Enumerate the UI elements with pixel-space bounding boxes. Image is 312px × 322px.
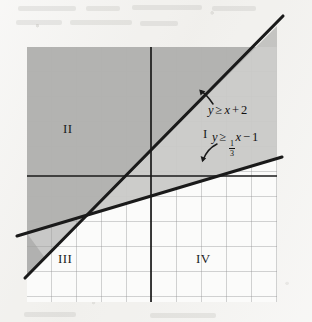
arrow-head-steep [199,90,205,96]
arrow-head-shallow [201,156,207,162]
quadrant-label-iii: III [58,251,72,267]
quadrant-label-ii: II [63,121,72,137]
var-y: y [208,103,214,117]
fraction-numerator: 1 [230,140,234,148]
inequality-label-steep: y≥x+2 [208,103,247,118]
operator-plus: + [232,103,239,117]
constant-1: 1 [252,130,258,144]
inequality-label-shallow: y≥13x−1 [212,130,258,158]
var-y: y [212,130,218,144]
relation-geq: ≥ [220,130,227,144]
quadrant-label-iv: IV [196,251,211,267]
constant-2: 2 [241,103,247,117]
operator-minus: − [243,130,250,144]
var-x: x [224,103,230,117]
fraction-denominator: 3 [230,150,234,158]
figure-canvas: II I III IV y≥x+2 y≥13x−1 [0,0,312,322]
relation-geq: ≥ [216,103,223,117]
quadrant-label-i: I [203,126,208,142]
annotation-arrows [0,0,312,322]
var-x: x [235,130,241,144]
